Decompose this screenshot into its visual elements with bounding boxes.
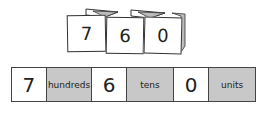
tens-label-cell: tens (127, 68, 174, 101)
units-label-cell: units (209, 68, 255, 101)
units-digit-cell: 0 (174, 68, 210, 101)
tens-digit-cell: 6 (92, 68, 127, 101)
flip-card-digit: 6 (119, 25, 131, 46)
hundreds-label-cell: hundreds (47, 68, 93, 101)
flip-card-digit: 7 (81, 23, 93, 44)
place-value-strip: 7 hundreds 6 tens 0 units (11, 67, 256, 102)
hundreds-digit-cell: 7 (12, 68, 47, 101)
flip-card-hundreds: 7 (67, 15, 107, 53)
flip-card-tens: 6 (106, 17, 145, 55)
flip-card-digit: 0 (157, 25, 169, 46)
flip-card-units: 0 (144, 17, 183, 55)
